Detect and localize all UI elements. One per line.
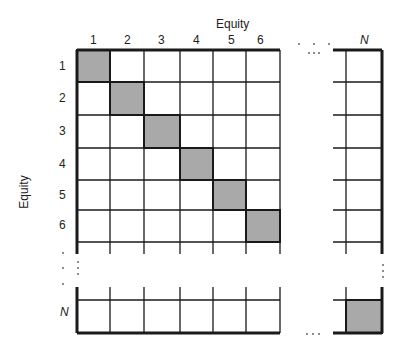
diagonal-cell-n — [346, 300, 382, 333]
diagonal-cell-1 — [77, 50, 110, 82]
row-label-5: 5 — [59, 189, 66, 201]
column-label-5: 5 — [228, 34, 235, 46]
left-axis-title: Equity — [18, 172, 30, 212]
grid-ellipsis-dot — [77, 273, 79, 275]
row-label-n: N — [60, 306, 69, 318]
column-label-3: 3 — [158, 34, 165, 46]
column-ellipsis-dot — [328, 43, 330, 45]
grid-ellipsis-dot — [77, 267, 79, 269]
grid-ellipsis-dot — [382, 264, 384, 266]
grid-ellipsis-dot — [77, 261, 79, 263]
grid-ellipsis-dot — [318, 52, 320, 54]
row-label-3: 3 — [59, 125, 66, 137]
row-label-2: 2 — [59, 92, 66, 104]
grid-ellipsis-dot — [318, 333, 320, 335]
column-label-1: 1 — [90, 34, 97, 46]
diagonal-cell-5 — [213, 180, 246, 210]
column-label-4: 4 — [193, 34, 200, 46]
diagonal-cell-4 — [180, 148, 213, 180]
row-label-4: 4 — [59, 158, 66, 170]
grid-ellipsis-dot — [308, 52, 310, 54]
grid-ellipsis-dot — [313, 52, 315, 54]
matrix-diagram: Equity Equity 1 2 3 4 5 6 N 1 2 3 4 5 6 … — [0, 0, 397, 346]
row-label-1: 1 — [59, 60, 66, 72]
column-label-n: N — [360, 34, 369, 46]
row-ellipsis-dot — [62, 252, 64, 254]
top-axis-title: Equity — [216, 18, 249, 30]
diagonal-cell-2 — [110, 82, 144, 115]
column-ellipsis-dot — [298, 43, 300, 45]
column-ellipsis-dot — [313, 43, 315, 45]
grid-ellipsis-dot — [382, 276, 384, 278]
diagonal-cell-6 — [246, 210, 280, 242]
grid-ellipsis-dot — [382, 270, 384, 272]
grid-ellipsis-dot — [306, 333, 308, 335]
grid-ellipsis-dot — [312, 333, 314, 335]
column-label-2: 2 — [124, 34, 131, 46]
row-label-6: 6 — [59, 219, 66, 231]
row-ellipsis-dot — [62, 283, 64, 285]
diagonal-cell-3 — [144, 115, 180, 148]
row-ellipsis-dot — [62, 267, 64, 269]
column-label-6: 6 — [257, 34, 264, 46]
matrix-grid — [0, 0, 397, 346]
